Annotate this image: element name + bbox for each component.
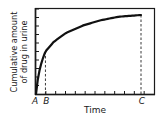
- y-axis-label: Cumulative amount of drug in urine: [9, 11, 29, 93]
- marker-label-b: B: [43, 96, 49, 106]
- x-axis-ticks: [46, 91, 144, 94]
- marker-lines: [45, 15, 141, 94]
- cumulative-curve: [36, 15, 141, 94]
- chart: ABC Time Cumulative amount of drug in ur…: [0, 0, 163, 122]
- y-axis-label-line2: of drug in urine: [19, 20, 29, 83]
- marker-label-c: C: [139, 96, 146, 106]
- marker-label-a: A: [31, 96, 38, 106]
- x-axis-label: Time: [83, 105, 106, 115]
- y-axis-label-line1: Cumulative amount: [9, 11, 19, 93]
